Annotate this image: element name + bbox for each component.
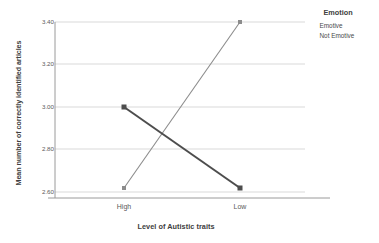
legend-label-emotive: Emotive	[320, 22, 343, 30]
data-point-marker	[238, 186, 243, 191]
axes	[48, 22, 330, 198]
legend: Emotion Emotive Not Emotive	[300, 8, 379, 41]
series-line-not-emotive	[124, 107, 240, 188]
data-point-marker	[122, 186, 126, 190]
legend-label-not-emotive: Not Emotive	[320, 32, 355, 40]
legend-item-emotive[interactable]: Emotive	[300, 22, 379, 30]
legend-item-not-emotive[interactable]: Not Emotive	[300, 32, 379, 40]
series-emotive	[122, 20, 242, 190]
x-tick-label-high: High	[94, 203, 154, 210]
data-point-marker	[122, 105, 127, 110]
x-tick-label-low: Low	[210, 203, 270, 210]
series-not-emotive	[122, 105, 243, 191]
x-axis-title: Level of Autistic traits	[46, 222, 306, 231]
data-point-marker	[238, 20, 242, 24]
legend-title: Emotion	[302, 8, 374, 17]
chart-figure: Mean number of correctly identified arti…	[0, 0, 379, 243]
series-line-emotive	[124, 22, 240, 188]
